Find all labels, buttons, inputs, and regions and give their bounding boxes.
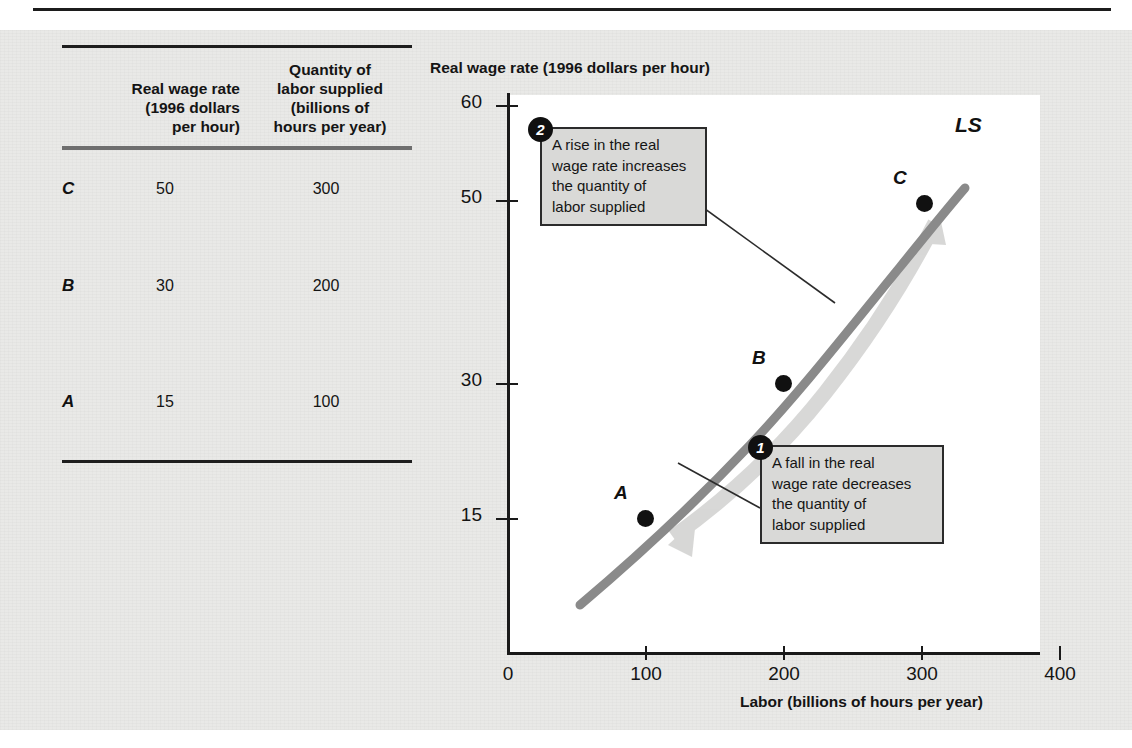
- callout-1-number: 1: [748, 435, 773, 460]
- data-point-b-label: B: [752, 347, 766, 369]
- table-row-quantity: 200: [240, 277, 412, 295]
- callout-1-box: A fall in the real wage rate decreases t…: [760, 445, 944, 544]
- table-header-row: Real wage rate (1996 dollars per hour) Q…: [62, 48, 412, 142]
- callout-2-line1: A rise in the real: [552, 135, 695, 156]
- table-header-qty-line4: hours per year): [244, 117, 416, 136]
- table-header-wage: Real wage rate (1996 dollars per hour): [90, 79, 244, 136]
- data-point-a: [637, 510, 654, 527]
- table-row-wage: 15: [90, 393, 240, 411]
- table-row-wage: 30: [90, 277, 240, 295]
- curve-label-ls: LS: [955, 113, 982, 137]
- data-point-a-label: A: [614, 482, 628, 504]
- table-row-key: C: [62, 179, 90, 199]
- callout-2-line3: the quantity of: [552, 176, 695, 197]
- labor-supply-chart: Real wage rate (1996 dollars per hour) L…: [430, 45, 1120, 725]
- callout-2-line2: wage rate increases: [552, 156, 695, 177]
- table-row-quantity: 100: [240, 393, 412, 411]
- table-row: C 50 300: [62, 150, 412, 228]
- page-top-rule: [33, 8, 1111, 11]
- table-row-quantity: 300: [240, 180, 412, 198]
- table-row: B 30 200: [62, 228, 412, 344]
- callout-1-line3: the quantity of: [772, 494, 932, 515]
- table-row-key: B: [62, 276, 90, 296]
- table-header-quantity: Quantity of labor supplied (billions of …: [244, 60, 416, 136]
- callout-2-number: 2: [528, 117, 553, 142]
- table-bottom-rule: [62, 460, 412, 463]
- figure-page: Real wage rate (1996 dollars per hour) Q…: [0, 0, 1132, 748]
- callout-1-line4: labor supplied: [772, 515, 932, 536]
- data-point-c: [916, 195, 933, 212]
- callout-1-line2: wage rate decreases: [772, 474, 932, 495]
- page-bottom-margin: [0, 730, 1132, 748]
- table-row-key: A: [62, 392, 90, 412]
- table-header-wage-line3: per hour): [90, 117, 240, 136]
- table-header-qty-line3: (billions of: [244, 98, 416, 117]
- table-header-wage-line1: Real wage rate: [90, 79, 240, 98]
- callout-1-line1: A fall in the real: [772, 453, 932, 474]
- table-header-wage-line2: (1996 dollars: [90, 98, 240, 117]
- table-header-qty-line1: Quantity of: [244, 60, 416, 79]
- data-point-b: [775, 375, 792, 392]
- supply-schedule-table: Real wage rate (1996 dollars per hour) Q…: [62, 45, 412, 463]
- callout-2-line4: labor supplied: [552, 197, 695, 218]
- table-row-wage: 50: [90, 180, 240, 198]
- callout-2-box: A rise in the real wage rate increases t…: [540, 127, 707, 226]
- table-row: A 15 100: [62, 344, 412, 460]
- data-point-c-label: C: [893, 167, 907, 189]
- table-header-qty-line2: labor supplied: [244, 79, 416, 98]
